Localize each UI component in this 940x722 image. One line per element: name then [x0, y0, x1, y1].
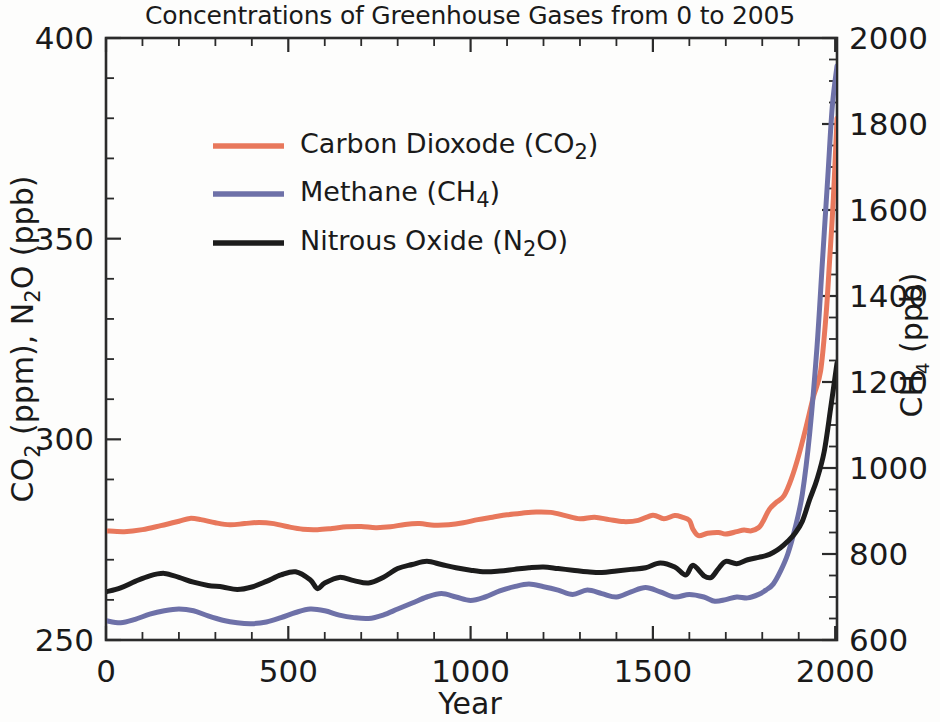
- chart-legend: Carbon Dioxode (CO2)Methane (CH4)Nitrous…: [213, 128, 598, 261]
- y-left-tick-label: 250: [35, 622, 94, 658]
- x-tick-label: 2000: [796, 653, 875, 689]
- x-tick-label: 500: [259, 653, 318, 689]
- greenhouse-gas-chart-figure: Concentrations of Greenhouse Gases from …: [0, 0, 940, 722]
- y-axis-left-label: CO2 (ppm), N2O (ppb): [5, 176, 45, 503]
- y-left-tick-label: 400: [35, 20, 94, 56]
- chart-canvas: Concentrations of Greenhouse Gases from …: [0, 0, 940, 722]
- x-tick-label: 1000: [431, 653, 510, 689]
- x-tick-label: 1500: [613, 653, 692, 689]
- series-path-3: [106, 363, 837, 592]
- y-right-tick-label: 2000: [849, 20, 928, 56]
- y-right-tick-label: 1800: [849, 106, 928, 142]
- y-axis-right-label: CH4 (ppb): [894, 272, 933, 417]
- y-right-tick-label: 1600: [849, 192, 928, 228]
- y-left-tick-label: 350: [35, 221, 94, 257]
- x-axis-label: Year: [437, 686, 502, 721]
- chart-title: Concentrations of Greenhouse Gases from …: [145, 1, 795, 30]
- y-axis-left-major-ticks: [106, 38, 121, 640]
- legend-label-2: Methane (CH4): [300, 176, 500, 212]
- y-right-tick-label: 600: [849, 622, 908, 658]
- legend-label-1: Carbon Dioxode (CO2): [300, 128, 598, 164]
- y-right-tick-label: 800: [849, 536, 908, 572]
- y-right-tick-label: 1000: [849, 450, 928, 486]
- legend-label-3: Nitrous Oxide (N2O): [300, 225, 568, 261]
- x-tick-label: 0: [96, 653, 116, 689]
- svg-text:CO2 (ppm), N2O (ppb): CO2 (ppm), N2O (ppb): [5, 176, 45, 503]
- y-axis-left-tick-labels: 250300350400: [35, 20, 94, 658]
- svg-text:CH4 (ppb): CH4 (ppb): [894, 272, 933, 417]
- x-axis-tick-labels: 0500100015002000: [96, 653, 874, 689]
